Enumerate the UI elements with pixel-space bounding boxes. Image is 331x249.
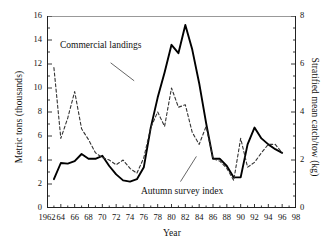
y-axis-right-tick: 2 [300, 154, 322, 164]
y-axis-right-tick: 0 [300, 202, 322, 212]
y-axis-right-tick: 6 [300, 58, 322, 68]
y-axis-left-tick: 2 [20, 178, 42, 188]
y-axis-left-tick: 8 [20, 106, 42, 116]
y-axis-left-tick: 16 [20, 10, 42, 20]
y-axis-left-tick: 0 [20, 202, 42, 212]
leader-line-autumn [180, 156, 196, 181]
annotation-commercial-landings: Commercial landings [60, 40, 142, 50]
y-axis-right-tick: 8 [300, 10, 322, 20]
annotation-autumn-survey-index: Autumn survey index [141, 186, 223, 196]
y-axis-left-tick: 10 [20, 82, 42, 92]
y-axis-left-tick: 4 [20, 154, 42, 164]
chart-figure: Metric tons (thousands) Stratified mean … [0, 0, 331, 249]
series-autumn-survey-index [54, 68, 282, 181]
y-axis-right-tick: 4 [300, 106, 322, 116]
leader-line-commercial [111, 63, 135, 81]
y-axis-left-tick: 12 [20, 58, 42, 68]
y-axis-left-tick: 14 [20, 34, 42, 44]
y-axis-left-tick: 6 [20, 130, 42, 140]
x-axis-title: Year [47, 228, 297, 238]
x-axis-tick: 98 [283, 212, 309, 222]
